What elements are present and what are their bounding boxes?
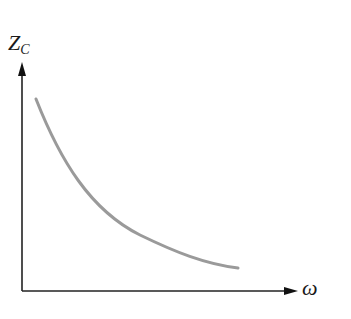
impedance-vs-frequency-diagram: ZC ω [0,0,351,319]
y-axis-arrow-icon [18,62,26,76]
x-axis-arrow-icon [284,287,298,295]
x-axis-label: ω [302,275,318,301]
y-axis-label: ZC [8,30,30,58]
impedance-curve [36,99,238,268]
plot-canvas [0,0,351,319]
